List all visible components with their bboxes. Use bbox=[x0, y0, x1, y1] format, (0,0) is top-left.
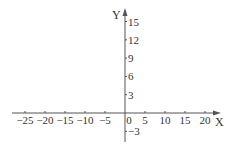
x-tick-label: −20 bbox=[36, 114, 54, 126]
x-tick-label: 20 bbox=[200, 114, 212, 126]
x-tick-label: −25 bbox=[16, 114, 34, 126]
x-tick-label: −15 bbox=[56, 114, 74, 126]
x-tick-label: −10 bbox=[76, 114, 94, 126]
y-tick-label: 9 bbox=[128, 52, 134, 64]
y-axis-label: Y bbox=[112, 8, 121, 22]
x-axis-label: X bbox=[215, 115, 224, 129]
y-tick-label: 3 bbox=[128, 89, 134, 101]
y-axis-arrow-icon bbox=[123, 8, 128, 16]
x-tick-label: 10 bbox=[160, 114, 172, 126]
y-tick-label: 12 bbox=[128, 34, 139, 46]
x-tick-label: 5 bbox=[142, 114, 148, 126]
y-tick-label: 15 bbox=[128, 16, 140, 28]
x-tick-label: 15 bbox=[180, 114, 192, 126]
x-tick-label: −5 bbox=[99, 114, 111, 126]
coordinate-plane: −25−20−15−10−505101520 1512963−3 Y X bbox=[0, 0, 234, 150]
y-tick-label: −3 bbox=[128, 125, 140, 137]
y-tick-label: 6 bbox=[128, 70, 134, 82]
x-tick-label: 0 bbox=[126, 114, 132, 126]
